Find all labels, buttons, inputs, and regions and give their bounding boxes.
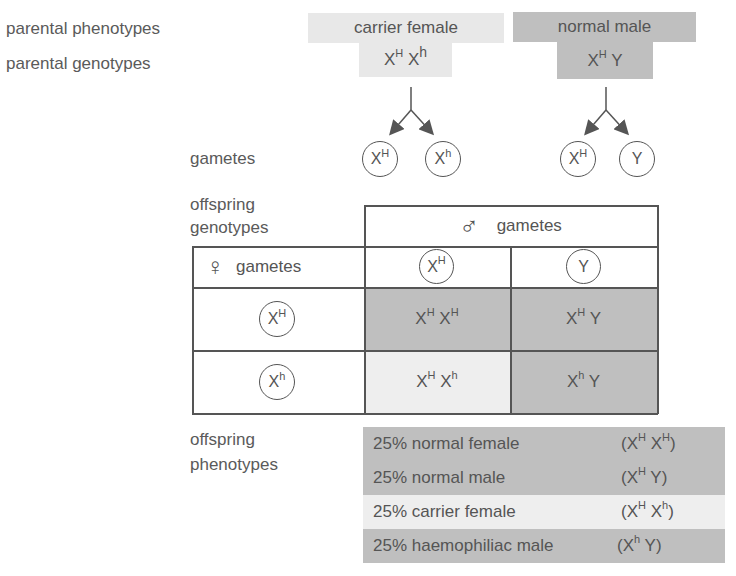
column-gamete-XH: XH	[419, 249, 454, 284]
grid-line	[657, 205, 659, 414]
phenotype-row-haemophiliac-male: 25% haemophiliac male (Xh Y)	[363, 529, 725, 563]
row-gamete-Xh: Xh	[259, 364, 295, 400]
grid-line	[364, 205, 366, 414]
punnett-cell-Xh-XH: XH Xh	[364, 350, 510, 413]
female-gametes-header: ♀ gametes	[192, 246, 364, 287]
grid-line	[192, 413, 658, 415]
punnett-cell-XH-XH: XH XH	[364, 287, 510, 350]
punnett-cell-XH-Y: XH Y	[510, 287, 657, 350]
grid-line	[192, 287, 658, 289]
female-symbol-icon: ♀	[206, 253, 224, 281]
grid-line	[192, 246, 194, 414]
male-symbol-icon: ♂	[459, 211, 479, 242]
phenotype-row-normal-female: 25% normal female (XH XH)	[363, 427, 725, 461]
male-gamete-Y: Y	[619, 141, 655, 177]
phenotype-row-carrier-female: 25% carrier female (XH Xh)	[363, 495, 725, 529]
grid-line	[510, 246, 512, 414]
column-gamete-Y: Y	[566, 249, 601, 284]
female-gamete-Xh: Xh	[425, 141, 461, 177]
phenotype-row-normal-male: 25% normal male (XH Y)	[363, 461, 725, 495]
punnett-cell-Xh-Y: Xh Y	[510, 350, 657, 413]
female-gamete-XH: XH	[362, 141, 398, 177]
male-gametes-header: ♂ gametes	[364, 205, 657, 246]
row-gamete-XH: XH	[259, 301, 295, 337]
grid-line	[192, 246, 658, 248]
grid-line	[364, 205, 658, 207]
male-gamete-XH: XH	[560, 141, 596, 177]
grid-line	[192, 350, 658, 352]
